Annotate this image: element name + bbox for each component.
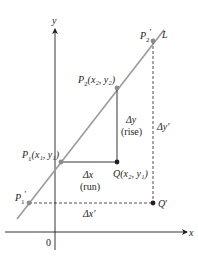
run-label: (run): [80, 181, 100, 193]
point-P1-prime: [27, 201, 32, 206]
y-axis-label: y: [51, 15, 57, 26]
point-Q: [115, 160, 120, 165]
slope-diagram: y x 0 L P2′ P2(x₂, y₂) P1(x₁, y₁) P1′ Q(…: [0, 0, 198, 261]
point-P1: [59, 160, 64, 165]
delta-y-prime-label: Δy′: [156, 121, 170, 132]
point-P2-prime: [151, 39, 156, 44]
Q-label: Q(x₂, y₁): [113, 168, 148, 180]
Q-prime-label: Q′: [158, 198, 167, 209]
x-axis-label: x: [188, 227, 194, 238]
origin-label: 0: [46, 237, 51, 248]
delta-x-label: Δx: [82, 169, 94, 180]
delta-x-prime-label: Δx′: [82, 208, 96, 219]
point-P2: [115, 86, 120, 91]
P1-label: P1(x₁, y₁): [21, 149, 60, 163]
P2-prime-label: P2′: [139, 27, 152, 44]
delta-y-label: Δy: [125, 114, 137, 125]
rise-label: (rise): [121, 126, 142, 138]
P2-label: P2(x₂, y₂): [77, 74, 116, 88]
P1-prime-label: P1′: [14, 189, 27, 206]
point-Q-prime: [151, 201, 156, 206]
line-label: L: [161, 29, 168, 40]
